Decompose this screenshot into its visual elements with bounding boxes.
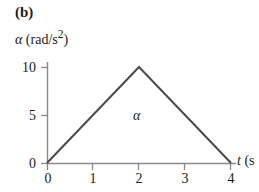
x-axis-label: t (s — [237, 153, 255, 169]
figure-panel-b: (b) α (rad/s2) 10 5 0 0 1 2 3 4 α t (s — [0, 0, 259, 192]
x-tick-label-3: 3 — [175, 171, 195, 187]
x-axis-unit: (s — [241, 153, 255, 168]
plot-area — [0, 0, 259, 192]
y-tick-label-10: 10 — [8, 60, 36, 76]
x-tick-label-2: 2 — [129, 171, 149, 187]
curve-area-label: α — [133, 108, 140, 124]
x-tick-label-4: 4 — [221, 171, 241, 187]
x-tick-label-1: 1 — [83, 171, 103, 187]
y-tick-label-0: 0 — [8, 156, 36, 172]
y-tick-label-5: 5 — [8, 108, 36, 124]
x-tick-label-0: 0 — [38, 171, 58, 187]
